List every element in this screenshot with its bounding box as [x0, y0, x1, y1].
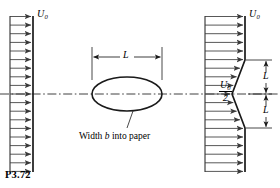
body-length-label: L	[123, 50, 129, 60]
wake-height-lower-label: L	[263, 105, 269, 115]
centerline-velocity-label: U0 2	[219, 80, 232, 103]
diagram-canvas	[0, 0, 280, 188]
outlet-velocity-label: U0	[249, 9, 260, 19]
inlet-arrows	[10, 17, 31, 172]
figure-container: U0 U0 U0 2 L L L Width b into paper P3.7…	[0, 0, 280, 188]
inlet-velocity-label: U0	[37, 9, 48, 19]
caption-leader-line	[127, 111, 133, 128]
width-caption: Width b into paper	[79, 131, 150, 141]
wake-height-upper-label: L	[263, 71, 269, 81]
inlet-velocity-profile	[10, 16, 33, 172]
figure-number: P3.72	[5, 169, 31, 180]
